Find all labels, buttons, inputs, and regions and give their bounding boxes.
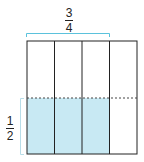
side-denominator: 2 xyxy=(7,129,14,143)
top-denominator: 4 xyxy=(66,21,73,35)
top-fraction-label: 3 4 xyxy=(62,7,76,34)
side-bracket xyxy=(21,99,25,155)
side-numerator: 1 xyxy=(7,114,14,128)
top-numerator: 3 xyxy=(66,6,73,20)
side-fraction-label: 1 2 xyxy=(3,115,17,142)
shaded-region xyxy=(27,98,109,154)
